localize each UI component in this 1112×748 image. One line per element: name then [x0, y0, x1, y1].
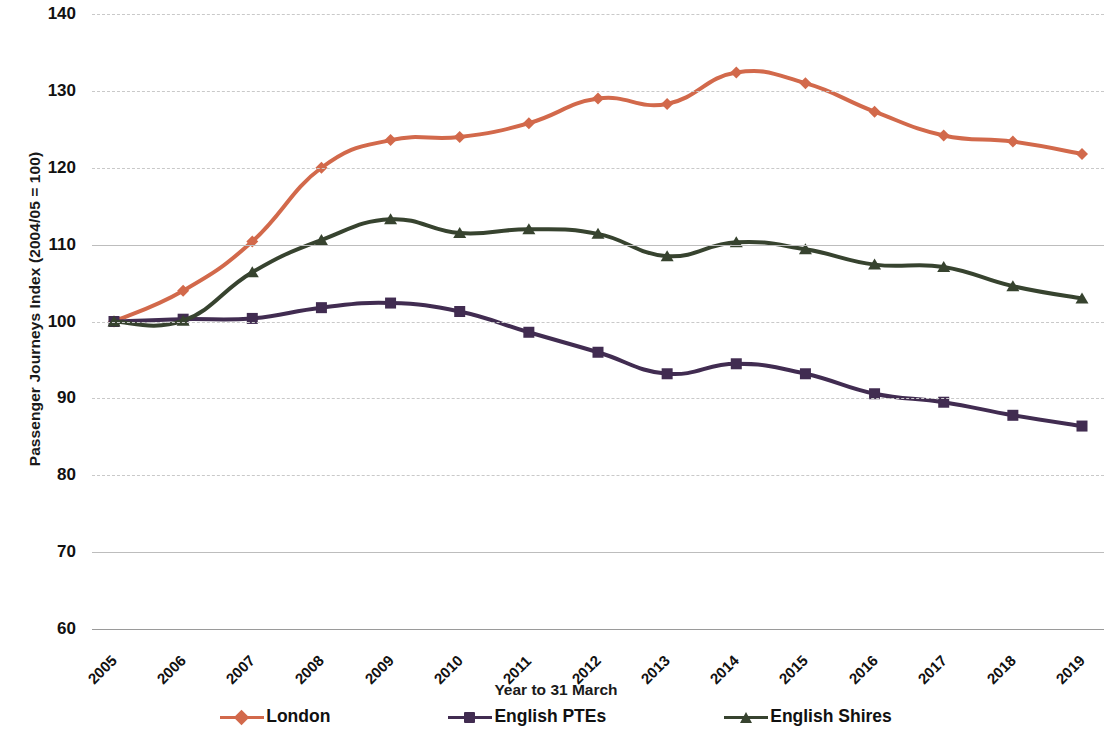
series-english-shires: [108, 213, 1089, 326]
chart-legend: LondonEnglish PTEsEnglish Shires: [0, 706, 1112, 727]
legend-swatch-triangle-icon: [724, 708, 768, 726]
data-point-english-ptes-2019: [1077, 421, 1088, 432]
data-point-london-2013: [661, 98, 673, 110]
legend-label: English Shires: [770, 706, 892, 727]
legend-marker-diamond-icon: [234, 709, 250, 725]
y-tick-110: 110: [18, 235, 76, 255]
y-tick-60: 60: [18, 619, 76, 639]
legend-label: English PTEs: [494, 706, 606, 727]
legend-label: London: [266, 706, 330, 727]
gridline-130: [92, 91, 1104, 92]
data-point-english-ptes-2008: [316, 302, 327, 313]
y-tick-130: 130: [18, 81, 76, 101]
gridline-110: [92, 245, 1104, 246]
data-point-english-ptes-2010: [454, 306, 465, 317]
data-point-london-2017: [938, 129, 950, 141]
legend-swatch-square-icon: [448, 708, 492, 726]
gridline-100: [92, 322, 1104, 323]
y-axis-tick-labels: 60708090100110120130140: [14, 14, 76, 629]
data-point-london-2009: [385, 134, 397, 146]
y-tick-80: 80: [18, 465, 76, 485]
gridline-120: [92, 168, 1104, 169]
y-tick-90: 90: [18, 388, 76, 408]
x-axis-title: Year to 31 March: [0, 681, 1112, 699]
data-point-london-2018: [1007, 136, 1019, 148]
y-tick-70: 70: [18, 542, 76, 562]
passenger-journeys-index-chart: Passenger Journeys Index (2004/05 = 100)…: [0, 0, 1112, 748]
series-london: [108, 66, 1088, 327]
legend-item-english-ptes[interactable]: English PTEs: [448, 706, 606, 727]
data-point-london-2010: [454, 131, 466, 143]
y-tick-100: 100: [18, 312, 76, 332]
gridline-80: [92, 475, 1104, 476]
legend-item-english-shires[interactable]: English Shires: [724, 706, 892, 727]
data-point-london-2015: [799, 77, 811, 89]
data-point-london-2019: [1076, 148, 1088, 160]
plot-area: [92, 14, 1104, 629]
y-tick-120: 120: [18, 158, 76, 178]
legend-swatch-diamond-icon: [220, 708, 264, 726]
data-point-english-ptes-2009: [385, 298, 396, 309]
data-point-london-2014: [730, 66, 742, 78]
legend-item-london[interactable]: London: [220, 706, 330, 727]
series-line-0: [114, 71, 1082, 322]
legend-marker-square-icon: [464, 712, 475, 723]
x-axis-tick-labels: 2005200620072008200920102011201220132014…: [92, 629, 1104, 685]
gridline-70: [92, 552, 1104, 553]
data-point-english-ptes-2018: [1007, 410, 1018, 421]
data-point-english-ptes-2011: [523, 327, 534, 338]
data-point-london-2016: [869, 106, 881, 118]
data-point-english-ptes-2013: [662, 368, 673, 379]
data-point-english-ptes-2012: [593, 347, 604, 358]
gridline-90: [92, 398, 1104, 399]
data-point-english-ptes-2014: [731, 358, 742, 369]
gridline-140: [92, 14, 1104, 15]
legend-marker-triangle-icon: [740, 712, 752, 723]
y-tick-140: 140: [18, 4, 76, 24]
series-english-ptes: [109, 298, 1088, 432]
data-point-english-ptes-2015: [800, 368, 811, 379]
data-point-london-2011: [523, 117, 535, 129]
data-point-london-2012: [592, 93, 604, 105]
